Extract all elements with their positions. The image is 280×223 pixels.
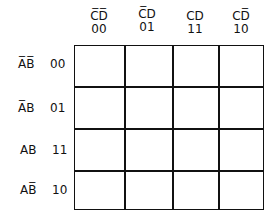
kmap-cell-01-01	[125, 87, 172, 128]
row-header-11: AB 11	[20, 143, 76, 157]
kmap-grid	[74, 45, 264, 210]
row-code-label: 01	[50, 101, 65, 115]
kmap-cell-00-11	[173, 46, 218, 86]
kmap-cell-11-10	[219, 129, 263, 170]
row-var-label: A̅B̅	[18, 57, 34, 71]
kmap-cell-01-00	[75, 87, 124, 128]
column-code-label: 10	[216, 23, 266, 36]
row-var-label: AB	[20, 143, 36, 157]
row-code-label: 00	[50, 57, 65, 71]
kmap-cell-10-11	[173, 171, 218, 209]
kmap-cell-11-11	[173, 129, 218, 170]
kmap-cell-01-10	[219, 87, 263, 128]
row-header-10: AB̅ 10	[20, 183, 76, 197]
kmap-cell-00-00	[75, 46, 124, 86]
column-code-label: 11	[170, 23, 220, 36]
row-code-label: 10	[52, 183, 67, 197]
kmap-cell-00-10	[219, 46, 263, 86]
row-header-01: A̅B 01	[18, 101, 74, 115]
row-header-00: A̅B̅ 00	[18, 57, 74, 71]
row-var-label: AB̅	[20, 183, 36, 197]
kmap-cell-10-10	[219, 171, 263, 209]
row-var-label: A̅B	[18, 101, 34, 115]
kmap-cell-11-01	[125, 129, 172, 170]
column-code-label: 00	[74, 23, 124, 36]
row-code-label: 11	[52, 143, 67, 157]
column-code-label: 01	[122, 21, 172, 34]
kmap-cell-10-01	[125, 171, 172, 209]
kmap-cell-01-11	[173, 87, 218, 128]
kmap-cell-00-01	[125, 46, 172, 86]
column-header-00: C̅D̅ 00	[74, 10, 124, 36]
column-header-11: CD 11	[170, 10, 220, 36]
kmap-cell-11-00	[75, 129, 124, 170]
kmap-cell-10-00	[75, 171, 124, 209]
column-header-10: CD̅ 10	[216, 10, 266, 36]
column-header-01: C̅D 01	[122, 8, 172, 34]
